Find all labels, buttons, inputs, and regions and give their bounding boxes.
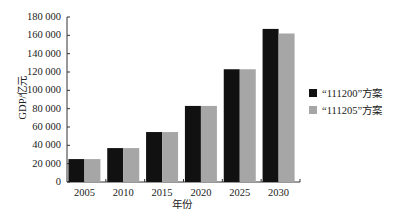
legend-swatch-gray — [309, 106, 317, 114]
legend-label: “111200”方案 — [322, 85, 382, 100]
x-tick-label: 2025 — [220, 187, 260, 199]
y-tick-label: 20 000 — [5, 158, 61, 170]
legend-item-111200: “111200”方案 — [309, 84, 382, 101]
bar-2010-0 — [107, 148, 123, 182]
bar-2020-1 — [201, 106, 217, 182]
legend: “111200”方案 “111205”方案 — [309, 84, 382, 118]
bar-2030-0 — [263, 29, 279, 182]
x-axis-title: 年份 — [172, 196, 192, 211]
x-tick-label: 2005 — [64, 187, 104, 199]
gdp-bar-chart: 020 00040 00060 00080 000100 000120 0001… — [0, 0, 402, 221]
bar-2020-0 — [185, 106, 201, 182]
y-tick-label: 140 000 — [5, 48, 61, 60]
y-tick-label: 160 000 — [5, 29, 61, 41]
bar-2005-1 — [84, 159, 100, 182]
legend-swatch-black — [309, 89, 317, 97]
bar-2005-0 — [68, 159, 84, 182]
y-tick-label: 40 000 — [5, 139, 61, 151]
bar-2015-0 — [146, 132, 162, 182]
bar-2015-1 — [162, 132, 178, 182]
x-tick-label: 2010 — [103, 187, 143, 199]
y-tick-label: 180 000 — [5, 11, 61, 23]
bar-2010-1 — [123, 148, 139, 182]
bar-2025-1 — [240, 69, 256, 182]
bar-2025-0 — [224, 69, 240, 182]
legend-item-111205: “111205”方案 — [309, 101, 382, 118]
legend-label: “111205”方案 — [322, 102, 382, 117]
y-tick-label: 0 — [5, 176, 61, 188]
bar-2030-1 — [279, 34, 295, 183]
x-tick-label: 2030 — [259, 187, 299, 199]
y-axis-title: GDP/亿元 — [14, 73, 29, 123]
y-tick-label: 60 000 — [5, 121, 61, 133]
